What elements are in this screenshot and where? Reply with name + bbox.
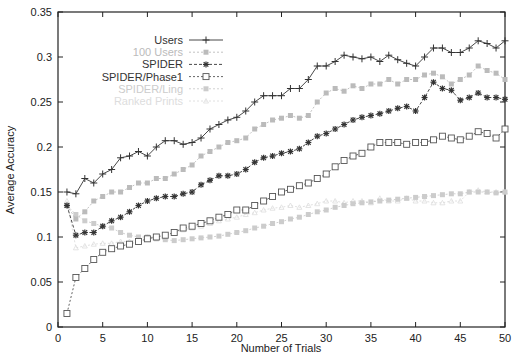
y-tick-label: 0.2 bbox=[37, 141, 52, 153]
legend-label: SPIDER/Ling bbox=[118, 83, 183, 95]
legend-item: Users bbox=[154, 34, 223, 46]
x-tick-label: 45 bbox=[454, 332, 466, 344]
plot-frame bbox=[58, 12, 505, 327]
y-tick-label: 0.15 bbox=[31, 186, 52, 198]
legend-label: SPIDER/Phase1 bbox=[102, 71, 183, 83]
y-tick-label: 0.25 bbox=[31, 96, 52, 108]
y-axis-label: Average Accuracy bbox=[4, 125, 16, 214]
x-tick-label: 35 bbox=[365, 332, 377, 344]
x-tick-label: 30 bbox=[320, 332, 332, 344]
legend-label: Users bbox=[154, 34, 183, 46]
legend-item: Ranked Prints bbox=[114, 95, 223, 107]
x-tick-label: 5 bbox=[100, 332, 106, 344]
x-tick-label: 15 bbox=[186, 332, 198, 344]
x-tick-label: 0 bbox=[55, 332, 61, 344]
legend: Users100 UsersSPIDERSPIDER/Phase1SPIDER/… bbox=[102, 34, 223, 107]
x-axis-label: Number of Trials bbox=[241, 342, 322, 354]
y-tick-label: 0.1 bbox=[37, 231, 52, 243]
legend-label: Ranked Prints bbox=[114, 95, 184, 107]
legend-item: 100 Users bbox=[133, 46, 223, 58]
line-chart: 0510152025303540455000.050.10.150.20.250… bbox=[0, 0, 515, 361]
legend-item: SPIDER/Phase1 bbox=[102, 71, 223, 83]
legend-item: SPIDER bbox=[142, 58, 223, 70]
series-spider-ling bbox=[64, 190, 507, 244]
y-tick-label: 0 bbox=[46, 321, 52, 333]
y-tick-label: 0.05 bbox=[31, 276, 52, 288]
x-tick-label: 40 bbox=[409, 332, 421, 344]
x-tick-label: 50 bbox=[499, 332, 511, 344]
y-tick-label: 0.35 bbox=[31, 6, 52, 18]
legend-label: 100 Users bbox=[133, 46, 184, 58]
y-tick-label: 0.3 bbox=[37, 51, 52, 63]
legend-label: SPIDER bbox=[142, 58, 183, 70]
series-spider-phase1 bbox=[64, 126, 508, 317]
x-tick-label: 10 bbox=[141, 332, 153, 344]
legend-item: SPIDER/Ling bbox=[118, 83, 223, 95]
